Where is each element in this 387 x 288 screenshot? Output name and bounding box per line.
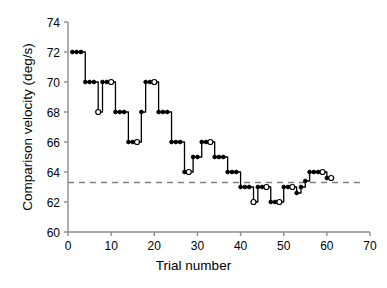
data-point-filled xyxy=(295,191,299,195)
data-point-filled xyxy=(174,140,178,144)
y-tick-label: 74 xyxy=(47,16,61,30)
data-point-filled xyxy=(79,50,83,54)
y-axis-tick-labels: 6062646668707274 xyxy=(47,16,61,240)
x-tick-label: 50 xyxy=(277,239,291,253)
data-point-filled xyxy=(243,185,247,189)
data-point-filled xyxy=(101,80,105,84)
data-point-open xyxy=(264,185,269,190)
data-point-filled xyxy=(157,110,161,114)
data-point-filled xyxy=(118,110,122,114)
x-tick-label: 70 xyxy=(363,239,377,253)
data-point-open xyxy=(290,185,295,190)
data-point-filled xyxy=(196,155,200,159)
data-point-filled xyxy=(234,170,238,174)
data-point-filled xyxy=(230,170,234,174)
data-point-filled xyxy=(139,110,143,114)
x-axis-tick-labels: 010203040506070 xyxy=(65,239,377,253)
axis-lines xyxy=(68,22,370,232)
y-tick-label: 72 xyxy=(47,46,61,60)
data-point-filled xyxy=(144,80,148,84)
x-tick-label: 30 xyxy=(191,239,205,253)
data-point-filled xyxy=(308,170,312,174)
data-point-open xyxy=(186,170,191,175)
x-tick-label: 10 xyxy=(104,239,118,253)
staircase-data-markers xyxy=(70,50,333,204)
data-point-filled xyxy=(239,185,243,189)
data-point-filled xyxy=(92,80,96,84)
data-point-open xyxy=(329,176,334,181)
y-axis-title: Comparison velocity (deg/s) xyxy=(20,12,35,242)
data-point-filled xyxy=(88,80,92,84)
data-point-open xyxy=(208,140,213,145)
data-point-filled xyxy=(256,185,260,189)
data-point-filled xyxy=(221,155,225,159)
data-point-open xyxy=(277,200,282,205)
y-tick-label: 66 xyxy=(47,136,61,150)
y-tick-label: 70 xyxy=(47,76,61,90)
staircase-plot: 6062646668707274 010203040506070 xyxy=(0,0,387,288)
y-tick-label: 68 xyxy=(47,106,61,120)
data-point-open xyxy=(96,110,101,115)
data-point-filled xyxy=(191,155,195,159)
x-tick-label: 0 xyxy=(65,239,72,253)
data-point-filled xyxy=(70,50,74,54)
x-axis-title: Trial number xyxy=(0,258,387,273)
data-point-open xyxy=(152,80,157,85)
data-point-filled xyxy=(170,140,174,144)
data-point-filled xyxy=(83,80,87,84)
data-point-filled xyxy=(75,50,79,54)
data-point-filled xyxy=(247,185,251,189)
data-point-filled xyxy=(312,170,316,174)
y-tick-label: 60 xyxy=(47,226,61,240)
figure-container: 6062646668707274 010203040506070 Compari… xyxy=(0,0,387,288)
data-point-filled xyxy=(269,200,273,204)
data-point-filled xyxy=(114,110,118,114)
data-point-filled xyxy=(122,110,126,114)
data-point-filled xyxy=(200,140,204,144)
y-tick-label: 64 xyxy=(47,166,61,180)
data-point-filled xyxy=(217,155,221,159)
data-point-open xyxy=(320,170,325,175)
data-point-open xyxy=(109,80,114,85)
x-tick-label: 20 xyxy=(148,239,162,253)
staircase-data-line xyxy=(72,52,331,202)
data-point-filled xyxy=(226,170,230,174)
data-point-open xyxy=(251,200,256,205)
data-point-filled xyxy=(165,110,169,114)
data-point-filled xyxy=(213,155,217,159)
x-tick-label: 60 xyxy=(320,239,334,253)
y-tick-label: 62 xyxy=(47,196,61,210)
data-point-filled xyxy=(303,179,307,183)
data-point-filled xyxy=(299,185,303,189)
data-point-filled xyxy=(126,140,130,144)
data-point-filled xyxy=(161,110,165,114)
data-point-filled xyxy=(178,140,182,144)
data-point-filled xyxy=(282,185,286,189)
data-point-open xyxy=(135,140,140,145)
x-tick-label: 40 xyxy=(234,239,248,253)
